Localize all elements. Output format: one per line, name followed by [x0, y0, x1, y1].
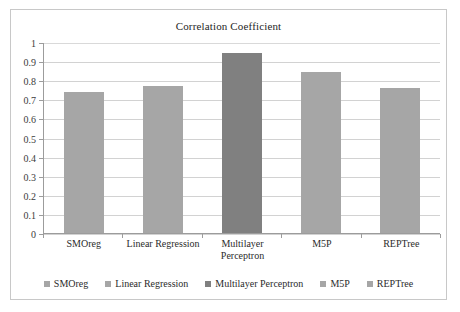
bar[interactable]	[380, 88, 420, 233]
y-tick-label: 0.8	[24, 76, 37, 87]
chart-legend: SMOregLinear RegressionMultilayer Percep…	[11, 278, 446, 289]
legend-swatch-icon	[44, 281, 50, 287]
y-tick-mark	[39, 100, 43, 101]
y-tick-label: 0.4	[24, 152, 37, 163]
bar[interactable]	[301, 72, 341, 233]
legend-label: M5P	[330, 278, 349, 289]
bar-slot	[44, 43, 123, 233]
y-tick-mark	[39, 62, 43, 63]
legend-item[interactable]: Multilayer Perceptron	[205, 278, 303, 289]
y-tick-label: 0.3	[24, 171, 37, 182]
chart-frame: Correlation Coefficient 10.90.80.70.60.5…	[10, 9, 447, 300]
y-tick-mark	[39, 139, 43, 140]
y-tick-mark	[39, 177, 43, 178]
category-label: Multilayer Perceptron	[203, 238, 282, 262]
y-tick-mark	[39, 196, 43, 197]
bar[interactable]	[143, 86, 183, 233]
y-tick-label: 0.2	[24, 190, 37, 201]
bar-slot	[282, 43, 361, 233]
y-tick-label: 0.5	[24, 133, 37, 144]
gridline	[43, 234, 440, 235]
legend-swatch-icon	[105, 281, 111, 287]
bar-slot	[123, 43, 202, 233]
y-tick-mark	[39, 81, 43, 82]
plot-area: 10.90.80.70.60.50.40.30.20.10	[43, 43, 440, 234]
legend-swatch-icon	[367, 281, 373, 287]
x-axis-category-labels: SMOregLinear RegressionMultilayer Percep…	[44, 238, 441, 262]
bar[interactable]	[64, 92, 104, 233]
plot-wrapper: 10.90.80.70.60.50.40.30.20.10	[43, 43, 440, 234]
chart-title: Correlation Coefficient	[11, 20, 446, 32]
y-tick-label: 0.9	[24, 57, 37, 68]
y-tick-label: 0	[31, 229, 36, 240]
y-tick-label: 0.6	[24, 114, 37, 125]
bar-slot	[361, 43, 440, 233]
legend-item[interactable]: REPTree	[367, 278, 413, 289]
legend-item[interactable]: M5P	[320, 278, 349, 289]
category-label: REPTree	[362, 238, 441, 262]
category-label: Linear Regression	[123, 238, 202, 262]
legend-item[interactable]: SMOreg	[44, 278, 88, 289]
y-tick-label: 1	[31, 38, 36, 49]
y-tick-label: 0.1	[24, 209, 37, 220]
x-axis-line	[43, 233, 440, 234]
legend-swatch-icon	[320, 281, 326, 287]
legend-label: SMOreg	[54, 278, 88, 289]
y-tick-mark	[39, 158, 43, 159]
bar[interactable]	[222, 53, 262, 233]
legend-label: Linear Regression	[115, 278, 188, 289]
bars-group	[44, 43, 440, 233]
category-label: SMOreg	[44, 238, 123, 262]
legend-swatch-icon	[205, 281, 211, 287]
category-label: M5P	[282, 238, 361, 262]
y-tick-label: 0.7	[24, 95, 37, 106]
legend-label: Multilayer Perceptron	[215, 278, 303, 289]
y-tick-mark	[39, 43, 43, 44]
y-tick-mark	[39, 119, 43, 120]
legend-label: REPTree	[377, 278, 413, 289]
legend-item[interactable]: Linear Regression	[105, 278, 188, 289]
y-tick-mark	[39, 215, 43, 216]
bar-slot	[202, 43, 281, 233]
